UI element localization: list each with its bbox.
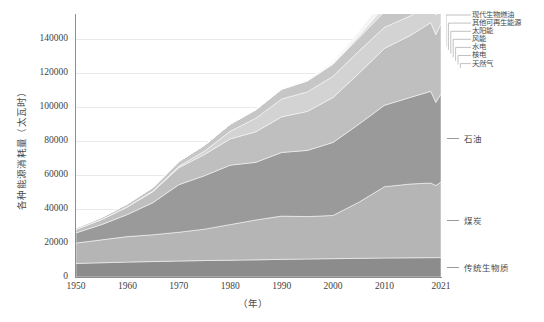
x-axis-title: （年） [0, 296, 506, 310]
x-tick-label: 2010 [361, 281, 407, 291]
annotation-label: 石油 [464, 132, 482, 144]
y-tick-label: 100000 [8, 101, 68, 111]
x-tick-label: 1950 [53, 281, 99, 291]
x-tick-label: 1990 [259, 281, 305, 291]
annotation-leader-line [447, 267, 459, 268]
y-tick-label: 80000 [8, 135, 68, 145]
annotation-label: 传统生物质 [464, 261, 509, 273]
y-tick-label: 140000 [8, 33, 68, 43]
plot-area [76, 14, 441, 277]
x-tick-label: 1970 [156, 281, 202, 291]
y-tick-label: 20000 [8, 237, 68, 247]
y-tick-label: 40000 [8, 203, 68, 213]
legend-item[interactable]: 天然气 [446, 60, 544, 68]
y-tick-label: 120000 [8, 67, 68, 77]
x-axis-line [75, 277, 442, 278]
x-tick-label: 1980 [207, 281, 253, 291]
y-tick-label: 60000 [8, 169, 68, 179]
legend-item[interactable]: 太阳能 [446, 27, 544, 35]
x-tick-label: 1960 [104, 281, 150, 291]
annotation-leader-line [447, 220, 459, 221]
legend-item[interactable]: 其他可再生能源 [446, 19, 544, 27]
stacked-area-svg [76, 14, 441, 277]
x-tick-label: 2021 [418, 281, 464, 291]
legend-item[interactable]: 核电 [446, 51, 544, 59]
legend-item[interactable]: 风能 [446, 35, 544, 43]
legend-item[interactable]: 水电 [446, 43, 544, 51]
annotation-leader-line [447, 138, 459, 139]
y-tick-label: 0 [8, 271, 68, 281]
legend: 现代生物燃油其他可再生能源太阳能风能水电核电天然气 [446, 11, 544, 68]
x-tick-label: 2000 [310, 281, 356, 291]
annotation-label: 煤炭 [464, 214, 482, 226]
energy-consumption-area-chart: 各种能源消耗量（太瓦时） （年） 02000040000600008000010… [0, 0, 544, 322]
